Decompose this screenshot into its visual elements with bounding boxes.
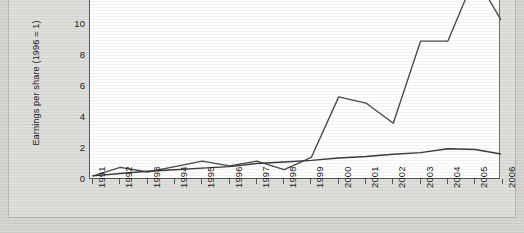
- y-tick-label-2: 2: [59, 143, 85, 153]
- x-tick-mark-1998: [283, 179, 284, 184]
- x-tick-mark-2004: [447, 179, 448, 184]
- x-tick-mark-1991: [92, 179, 93, 184]
- x-tick-mark-1995: [201, 179, 202, 184]
- y-axis-title: Earnings per share (1996 = 1): [31, 3, 41, 163]
- x-tick-mark-1993: [147, 179, 148, 184]
- y-axis-tick-labels: 10 8 6 4 2 0: [55, 0, 85, 233]
- x-tick-label-2003: 2003: [424, 166, 435, 188]
- x-tick-label-1998: 1998: [287, 166, 298, 188]
- series-lines: [90, 0, 501, 179]
- y-tick-label-4: 4: [59, 112, 85, 122]
- y-tick-label-8: 8: [59, 50, 85, 60]
- x-tick-mark-1994: [174, 179, 175, 184]
- x-tick-label-1999: 1999: [314, 166, 325, 188]
- x-tick-mark-2005: [474, 179, 475, 184]
- x-tick-label-2006: 2006: [506, 166, 517, 188]
- chart-figure: Earnings per share (1996 = 1) 10 8 6 4 2…: [0, 0, 524, 233]
- x-tick-mark-2003: [420, 179, 421, 184]
- x-tick-mark-1992: [119, 179, 120, 184]
- x-tick-mark-2000: [338, 179, 339, 184]
- x-tick-label-2004: 2004: [451, 166, 462, 188]
- x-tick-label-1994: 1994: [178, 166, 189, 188]
- x-tick-label-1992: 1992: [123, 166, 134, 188]
- y-tick-label-10: 10: [59, 19, 85, 29]
- x-tick-label-1991: 1991: [96, 166, 107, 188]
- x-tick-label-1996: 1996: [233, 166, 244, 188]
- y-tick-label-0: 0: [59, 174, 85, 184]
- x-tick-mark-1999: [310, 179, 311, 184]
- x-tick-label-1997: 1997: [260, 166, 271, 188]
- x-tick-label-1993: 1993: [151, 166, 162, 188]
- y-tick-label-6: 6: [59, 81, 85, 91]
- x-tick-label-2002: 2002: [396, 166, 407, 188]
- x-tick-mark-2002: [392, 179, 393, 184]
- x-tick-mark-1996: [229, 179, 230, 184]
- x-tick-label-2000: 2000: [342, 166, 353, 188]
- x-tick-mark-2001: [365, 179, 366, 184]
- x-tick-mark-1997: [256, 179, 257, 184]
- x-tick-mark-2006: [502, 179, 503, 184]
- x-tick-label-2001: 2001: [369, 166, 380, 188]
- x-tick-label-1995: 1995: [205, 166, 216, 188]
- plot-area: [89, 0, 500, 179]
- x-tick-label-2005: 2005: [478, 166, 489, 188]
